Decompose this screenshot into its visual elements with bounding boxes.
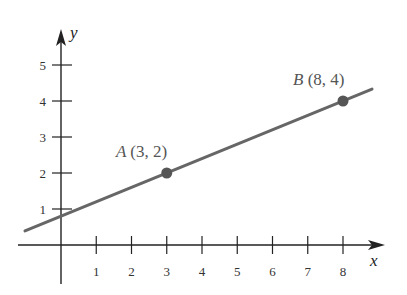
x-tick-label: 8 [340,264,347,279]
y-axis-label: y [68,23,78,42]
y-tick-label: 4 [40,94,47,109]
y-tick-label: 2 [40,166,47,181]
x-axis-label: x [369,251,378,270]
x-tick-label: 6 [269,264,276,279]
data-points: A (3, 2)B (8, 4) [115,70,349,179]
x-tick-label: 4 [199,264,206,279]
y-tick-label: 1 [40,202,47,217]
data-line [25,89,372,231]
point-a [161,168,172,179]
y-tick-label: 3 [40,130,47,145]
x-tick-label: 1 [93,264,100,279]
point-b [338,96,349,107]
point-label-b: B (8, 4) [293,70,344,89]
ticks: 1234567812345 [40,58,347,279]
line-ab [25,89,372,231]
x-tick-label: 2 [128,264,135,279]
x-tick-label: 7 [305,264,312,279]
x-tick-label: 5 [234,264,241,279]
coordinate-plane: 1234567812345 A (3, 2)B (8, 4) x y [0,0,407,295]
x-tick-label: 3 [164,264,171,279]
point-label-a: A (3, 2) [115,142,167,161]
y-tick-label: 5 [40,58,47,73]
